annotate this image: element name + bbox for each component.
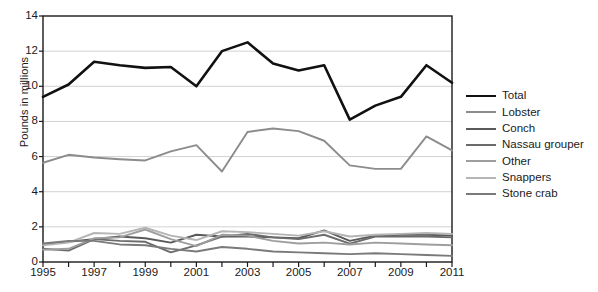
legend-item-label: Total (502, 90, 526, 102)
chart-figure: 02468101214 Pounds in millions 199519971… (0, 0, 598, 292)
legend-item[interactable]: Snappers (466, 169, 598, 185)
y-tick-label: 2 (12, 221, 38, 233)
legend-line-swatch (466, 95, 496, 97)
legend-item[interactable]: Nassau grouper (466, 137, 598, 153)
legend-item[interactable]: Conch (466, 121, 598, 137)
legend-line-swatch (466, 193, 496, 195)
plot-frame (43, 16, 452, 262)
x-tick-label: 2001 (176, 266, 216, 278)
legend-item[interactable]: Lobster (466, 104, 598, 120)
legend-item-label: Conch (502, 123, 535, 135)
x-tick-label: 2003 (228, 266, 268, 278)
legend-item-label: Other (502, 156, 531, 168)
legend-line-swatch (466, 177, 496, 179)
x-tick-label: 2011 (432, 266, 472, 278)
legend-line-swatch (466, 111, 496, 113)
x-tick-label: 2007 (330, 266, 370, 278)
x-tick-label: 2005 (279, 266, 319, 278)
series-line-lobster (43, 128, 452, 171)
legend-line-swatch (466, 128, 496, 130)
legend-item-label: Nassau grouper (502, 139, 584, 151)
legend-line-swatch (466, 144, 496, 146)
y-tick-label: 4 (12, 186, 38, 198)
chart-legend: TotalLobsterConchNassau grouperOtherSnap… (466, 88, 598, 202)
x-tick-label: 2009 (381, 266, 421, 278)
legend-item[interactable]: Other (466, 153, 598, 169)
legend-item[interactable]: Total (466, 88, 598, 104)
x-tick-label: 1999 (125, 266, 165, 278)
legend-item-label: Lobster (502, 107, 540, 119)
y-axis-title: Pounds in millions (18, 32, 30, 172)
legend-item-label: Snappers (502, 172, 551, 184)
legend-item[interactable]: Stone crab (466, 186, 598, 202)
x-tick-label: 1997 (74, 266, 114, 278)
y-tick-label: 14 (12, 10, 38, 22)
series-line-total (43, 42, 452, 119)
x-tick-label: 1995 (23, 266, 63, 278)
legend-line-swatch (466, 160, 496, 162)
legend-item-label: Stone crab (502, 188, 558, 200)
